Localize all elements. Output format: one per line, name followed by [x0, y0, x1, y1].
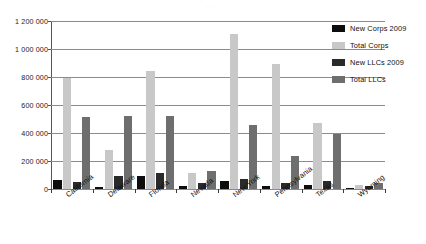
y-axis-labels: 0200 000400 000600 000800 0001 000 0001 … [0, 21, 48, 189]
bar-chart: · · · 0200 000400 000600 000800 0001 000… [0, 0, 426, 244]
bar [146, 71, 154, 189]
bar-group [93, 21, 135, 189]
bar [63, 78, 71, 189]
bar [346, 188, 354, 189]
y-axis-tick-label: 800 000 [0, 73, 48, 82]
legend-swatch-icon [332, 59, 345, 66]
chart-title-sliver: · · · [0, 0, 426, 13]
legend-label: New Corps 2009 [350, 22, 406, 35]
legend-swatch-icon [332, 76, 345, 83]
bar-group [176, 21, 218, 189]
bar [313, 123, 321, 189]
chart-legend: New Corps 2009Total CorpsNew LLCs 2009To… [332, 22, 426, 90]
legend-label: New LLCs 2009 [350, 56, 404, 69]
legend-label: Total Corps [350, 39, 388, 52]
legend-item: Total Corps [332, 39, 426, 52]
bar [262, 186, 270, 189]
legend-swatch-icon [332, 42, 345, 49]
legend-item: New LLCs 2009 [332, 56, 426, 69]
bar [95, 187, 103, 189]
bar-group [135, 21, 177, 189]
x-axis-category-labels: CaliforniaDelawareFloridaNevadaNew YorkP… [51, 190, 385, 244]
legend-item: New Corps 2009 [332, 22, 426, 35]
bar [179, 186, 187, 189]
bar-group [218, 21, 260, 189]
y-axis-tick-label: 200 000 [0, 157, 48, 166]
y-axis-tick-label: 1 000 000 [0, 45, 48, 54]
bar-group [51, 21, 93, 189]
bar [137, 176, 145, 189]
y-axis-tick-label: 1 200 000 [0, 17, 48, 26]
y-axis-tick-label: 0 [0, 185, 48, 194]
bar [333, 134, 341, 189]
legend-label: Total LLCs [350, 73, 386, 86]
bar [53, 180, 61, 189]
bar [105, 150, 113, 189]
bar [166, 116, 174, 189]
y-axis-tick-label: 600 000 [0, 101, 48, 110]
bar [272, 64, 280, 189]
bar-group [260, 21, 302, 189]
bar [220, 181, 228, 189]
legend-item: Total LLCs [332, 73, 426, 86]
legend-swatch-icon [332, 25, 345, 32]
y-axis-tick-label: 400 000 [0, 129, 48, 138]
bar [304, 185, 312, 189]
bar [230, 34, 238, 189]
x-axis-tick [385, 189, 386, 193]
